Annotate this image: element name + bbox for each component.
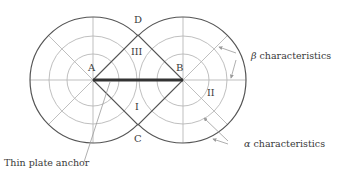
alpha-leader-2	[213, 139, 228, 144]
point-label-c: C	[134, 133, 142, 144]
beta-leader-1	[219, 47, 236, 53]
region-label-i: I	[135, 101, 139, 112]
thin-plate-anchor-label: Thin plate anchor	[4, 157, 90, 168]
slip-line-field-diagram: A B D C III I II β characteristics α cha…	[0, 0, 337, 178]
point-label-d: D	[134, 14, 142, 25]
point-label-a: A	[87, 62, 96, 73]
point-label-b: B	[176, 62, 183, 73]
alpha-characteristics-label: α characteristics	[244, 138, 325, 149]
region-label-iii: III	[131, 46, 143, 57]
beta-text: characteristics	[257, 50, 332, 61]
beta-characteristics-label: β characteristics	[250, 50, 331, 61]
region-label-ii: II	[207, 87, 215, 98]
beta-leader-2	[231, 60, 236, 78]
alpha-text: characteristics	[250, 138, 325, 149]
